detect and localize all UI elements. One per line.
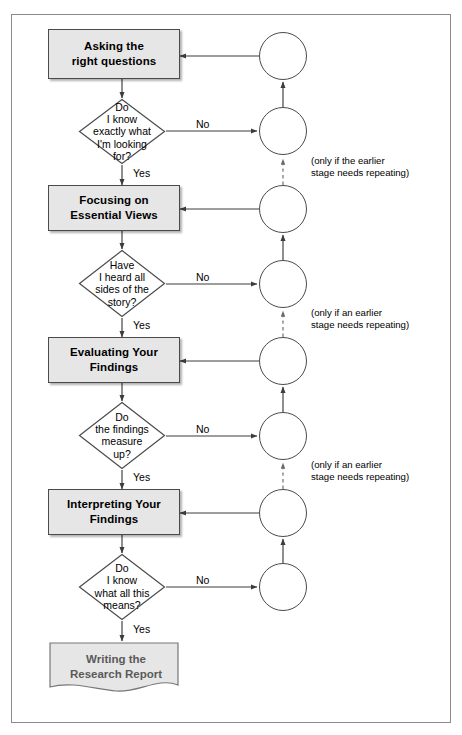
decision-diamond-stage-3[interactable]: Do the findings measure up? bbox=[78, 401, 166, 470]
process-box-stage-1-label: Asking the right questions bbox=[72, 39, 157, 68]
decision-line: I know bbox=[78, 575, 166, 587]
process-line-1: Interpreting Your bbox=[67, 497, 161, 512]
decision-line: up? bbox=[78, 448, 166, 460]
connector-circle-7[interactable] bbox=[259, 489, 307, 537]
decision-line: Do bbox=[78, 562, 166, 574]
edge-label-no-stage-4: No bbox=[196, 574, 209, 586]
edge-label-yes-stage-3: Yes bbox=[133, 471, 150, 483]
process-box-stage-2-label: Focusing on Essential Views bbox=[70, 193, 158, 222]
decision-line: sides of the bbox=[78, 284, 166, 296]
process-line-2: Findings bbox=[70, 360, 158, 375]
process-line-1: Evaluating Your bbox=[70, 345, 158, 360]
decision-line: Have bbox=[78, 259, 166, 271]
decision-line: the findings bbox=[78, 423, 166, 435]
terminal-line-2: Research Report bbox=[48, 667, 184, 682]
decision-diamond-stage-3-label: Do the findings measure up? bbox=[78, 411, 166, 461]
process-line-2: Essential Views bbox=[70, 208, 158, 223]
process-line-2: Findings bbox=[67, 512, 161, 527]
decision-line: means? bbox=[78, 599, 166, 611]
feedback-note-2: (only if an earlier stage needs repeatin… bbox=[311, 307, 409, 331]
process-box-stage-4-label: Interpreting Your Findings bbox=[67, 497, 161, 526]
decision-line: story? bbox=[78, 296, 166, 308]
decision-diamond-stage-1-label: Do I know exactly what I'm looking for? bbox=[78, 101, 166, 163]
decision-line: I'm looking bbox=[78, 138, 166, 150]
decision-diamond-stage-2[interactable]: Have I heard all sides of the story? bbox=[78, 249, 166, 318]
process-box-stage-1[interactable]: Asking the right questions bbox=[48, 29, 180, 79]
edge-label-yes-stage-1: Yes bbox=[133, 167, 150, 179]
decision-line: I know bbox=[78, 113, 166, 125]
connector-circle-3[interactable] bbox=[259, 185, 307, 233]
connector-circle-6[interactable] bbox=[259, 412, 307, 460]
terminal-line-1: Writing the bbox=[48, 652, 184, 667]
feedback-note-3: (only if an earlier stage needs repeatin… bbox=[311, 459, 409, 483]
decision-line: measure bbox=[78, 436, 166, 448]
edge-label-no-stage-3: No bbox=[196, 423, 209, 435]
edge-label-no-stage-1: No bbox=[196, 118, 209, 130]
decision-diamond-stage-4[interactable]: Do I know what all this means? bbox=[78, 553, 166, 621]
process-box-stage-2[interactable]: Focusing on Essential Views bbox=[48, 185, 180, 231]
feedback-note-1: (only if the earlier stage needs repeati… bbox=[311, 155, 409, 179]
flowchart-page: Asking the right questions Do I know exa… bbox=[0, 0, 462, 735]
edge-label-yes-stage-2: Yes bbox=[133, 319, 150, 331]
connector-circle-2[interactable] bbox=[259, 107, 307, 155]
terminal-document-node[interactable]: Writing the Research Report bbox=[48, 641, 184, 697]
process-line-1: Asking the bbox=[72, 39, 157, 54]
decision-diamond-stage-4-label: Do I know what all this means? bbox=[78, 562, 166, 612]
decision-line: what all this bbox=[78, 587, 166, 599]
process-box-stage-3-label: Evaluating Your Findings bbox=[70, 345, 158, 374]
page-edge-artifact bbox=[250, 0, 440, 7]
process-line-1: Focusing on bbox=[70, 193, 158, 208]
process-box-stage-3[interactable]: Evaluating Your Findings bbox=[48, 337, 180, 383]
edge-label-no-stage-2: No bbox=[196, 271, 209, 283]
decision-line: I heard all bbox=[78, 271, 166, 283]
connector-circle-5[interactable] bbox=[259, 337, 307, 385]
connector-circle-1[interactable] bbox=[259, 32, 307, 80]
edge-label-yes-stage-4: Yes bbox=[133, 623, 150, 635]
decision-line: Do bbox=[78, 101, 166, 113]
connector-circle-4[interactable] bbox=[259, 260, 307, 308]
decision-diamond-stage-2-label: Have I heard all sides of the story? bbox=[78, 259, 166, 309]
process-line-2: right questions bbox=[72, 54, 157, 69]
decision-line: Do bbox=[78, 411, 166, 423]
decision-line: exactly what bbox=[78, 125, 166, 137]
process-box-stage-4[interactable]: Interpreting Your Findings bbox=[48, 489, 180, 535]
decision-diamond-stage-1[interactable]: Do I know exactly what I'm looking for? bbox=[78, 98, 166, 165]
terminal-document-label: Writing the Research Report bbox=[48, 641, 184, 681]
decision-line: for? bbox=[78, 150, 166, 162]
connector-circle-8[interactable] bbox=[259, 563, 307, 611]
